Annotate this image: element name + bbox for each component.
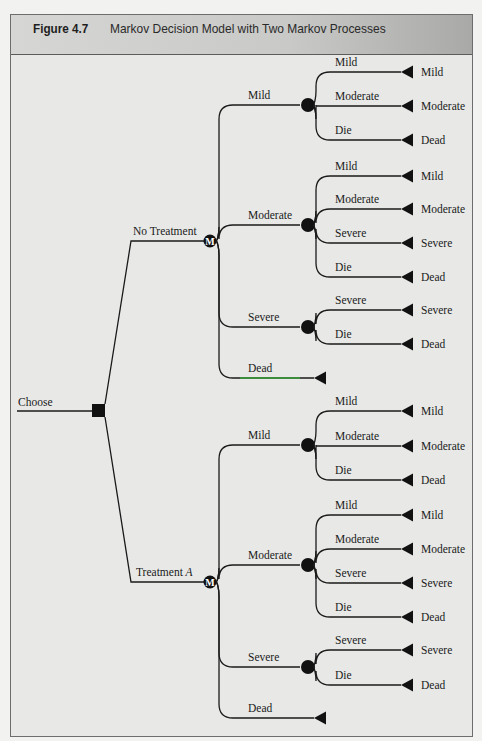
terminal-state-label: Mild xyxy=(421,66,444,78)
terminal-triangle-icon xyxy=(401,134,413,147)
transition-label: Die xyxy=(335,124,352,136)
state-line xyxy=(216,445,300,582)
transition-label: Moderate xyxy=(335,533,379,545)
terminal-triangle-icon xyxy=(401,203,413,216)
transition-label: Mild xyxy=(335,499,358,511)
state-label: Dead xyxy=(248,702,273,714)
terminal-triangle-icon xyxy=(401,644,413,657)
terminal-triangle-icon xyxy=(401,405,413,418)
terminal-state-label: Moderate xyxy=(421,543,465,555)
state-label: Moderate xyxy=(248,549,292,561)
transition-branch: SevereSevere xyxy=(313,294,452,327)
transition-branch: ModerateModerate xyxy=(313,193,465,225)
terminal-triangle-icon xyxy=(401,543,413,556)
terminal-triangle-icon xyxy=(314,712,326,725)
terminal-triangle-icon xyxy=(401,440,413,453)
arm-treatment-a: Treatment AMMildMildMildModerateModerate… xyxy=(105,395,465,725)
terminal-triangle-icon xyxy=(401,474,413,487)
arm-label: No Treatment xyxy=(133,225,197,237)
state-label: Dead xyxy=(248,362,273,374)
transition-label: Severe xyxy=(335,567,366,579)
terminal-triangle-icon xyxy=(401,509,413,522)
state-label: Moderate xyxy=(248,209,292,221)
transition-label: Die xyxy=(335,464,352,476)
state-label: Severe xyxy=(248,311,279,323)
transition-label: Severe xyxy=(335,294,366,306)
transition-label: Severe xyxy=(335,634,366,646)
terminal-state-label: Dead xyxy=(421,679,446,691)
terminal-state-label: Moderate xyxy=(421,440,465,452)
transition-branch: ModerateModerate xyxy=(313,430,465,459)
chance-node-icon xyxy=(301,320,315,334)
state-line xyxy=(216,565,300,582)
markov-glyph: M xyxy=(205,577,215,588)
transition-branch: SevereSevere xyxy=(313,565,452,590)
transition-label: Mild xyxy=(335,395,358,407)
root-label: Choose xyxy=(18,396,53,408)
arm-branch xyxy=(105,417,204,582)
transition-branch: DieDead xyxy=(313,327,446,351)
transition-line xyxy=(313,667,401,685)
transition-label: Die xyxy=(335,328,352,340)
terminal-state-label: Dead xyxy=(421,271,446,283)
transition-label: Moderate xyxy=(335,430,379,442)
transition-line xyxy=(313,445,401,480)
terminal-state-label: Severe xyxy=(421,237,452,249)
terminal-state-label: Mild xyxy=(421,170,444,182)
transition-line xyxy=(313,105,401,140)
transition-line xyxy=(313,549,401,565)
transition-branch: ModerateModerate xyxy=(313,90,465,119)
transition-line xyxy=(313,650,401,667)
terminal-state-label: Severe xyxy=(421,304,452,316)
state-branch: SevereSevereSevereDieDead xyxy=(216,582,452,692)
transition-label: Moderate xyxy=(335,193,379,205)
state-label: Mild xyxy=(248,89,271,101)
state-branch: ModerateMildMildModerateModerateSevereSe… xyxy=(216,160,465,284)
transition-label: Severe xyxy=(335,227,366,239)
terminal-triangle-icon xyxy=(401,304,413,317)
transition-branch: SevereSevere xyxy=(313,225,452,250)
transition-branch: ModerateModerate xyxy=(313,533,465,565)
terminal-state-label: Severe xyxy=(421,644,452,656)
terminal-state-label: Mild xyxy=(421,509,444,521)
transition-line xyxy=(313,209,401,225)
transition-label: Die xyxy=(335,669,352,681)
terminal-state-label: Severe xyxy=(421,577,452,589)
terminal-state-label: Dead xyxy=(421,338,446,350)
state-branch: SevereSevereSevereDieDead xyxy=(216,241,452,351)
transition-label: Moderate xyxy=(335,90,379,102)
decision-tree: ChooseNo TreatmentMMildMildMildModerateM… xyxy=(0,0,482,741)
terminal-triangle-icon xyxy=(401,271,413,284)
terminal-triangle-icon xyxy=(401,577,413,590)
decision-node-square-icon xyxy=(92,404,105,417)
terminal-triangle-icon xyxy=(401,100,413,113)
transition-label: Die xyxy=(335,601,352,613)
terminal-state-label: Moderate xyxy=(421,100,465,112)
transition-label: Mild xyxy=(335,56,358,68)
chance-node-icon xyxy=(301,438,315,452)
state-branch: ModerateMildMildModerateModerateSevereSe… xyxy=(216,499,465,624)
terminal-state-label: Dead xyxy=(421,134,446,146)
terminal-triangle-icon xyxy=(401,170,413,183)
transition-branch: SevereSevere xyxy=(313,634,452,667)
terminal-triangle-icon xyxy=(401,679,413,692)
state-line xyxy=(216,241,314,378)
terminal-triangle-icon xyxy=(401,237,413,250)
root-decision: Choose xyxy=(17,396,105,417)
arm-label: Treatment A xyxy=(136,566,194,578)
terminal-triangle-icon xyxy=(401,338,413,351)
markov-node-icon: M xyxy=(204,576,217,589)
arm-no-treatment: No TreatmentMMildMildMildModerateModerat… xyxy=(105,56,465,404)
transition-line xyxy=(313,327,401,344)
markov-glyph: M xyxy=(205,236,215,247)
transition-line xyxy=(313,105,401,119)
state-label: Severe xyxy=(248,651,279,663)
terminal-triangle-icon xyxy=(314,372,326,385)
terminal-state-label: Dead xyxy=(421,611,446,623)
terminal-state-label: Dead xyxy=(421,474,446,486)
chance-node-icon xyxy=(301,558,315,572)
chance-node-icon xyxy=(301,98,315,112)
chance-node-icon xyxy=(301,218,315,232)
terminal-triangle-icon xyxy=(401,611,413,624)
terminal-state-label: Mild xyxy=(421,405,444,417)
